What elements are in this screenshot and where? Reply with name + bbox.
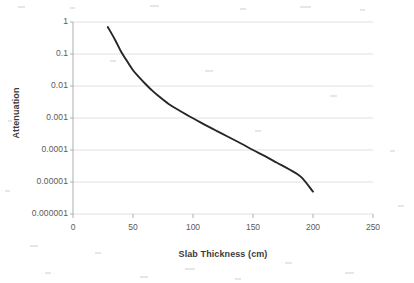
x-tick-label: 100 [173, 222, 213, 232]
gridlines [73, 22, 373, 214]
y-tick-label: 0.000001 [32, 208, 68, 218]
y-tick-label: 0.1 [56, 48, 68, 58]
chart-plot-area [0, 0, 414, 283]
y-tick-label: 0.001 [46, 112, 68, 122]
x-axis-ticks [73, 214, 373, 218]
chart-container: 0.0000010.000010.00010.0010.010.11 05010… [0, 0, 414, 283]
x-tick-label: 150 [233, 222, 273, 232]
data-series-attenuation [108, 27, 313, 192]
y-tick-label: 0.01 [51, 80, 68, 90]
x-tick-label: 0 [53, 222, 93, 232]
x-tick-label: 50 [113, 222, 153, 232]
y-axis-title: Attenuation [11, 63, 21, 163]
x-tick-label: 200 [293, 222, 333, 232]
x-tick-label: 250 [353, 222, 393, 232]
y-tick-label: 0.0001 [41, 144, 68, 154]
x-axis-title: Slab Thickness (cm) [73, 249, 373, 259]
y-tick-label: 1 [63, 16, 68, 26]
y-tick-label: 0.00001 [37, 176, 68, 186]
